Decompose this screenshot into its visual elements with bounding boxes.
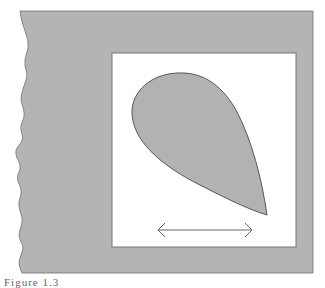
figure-caption: Figure 1.3 [4, 276, 59, 288]
